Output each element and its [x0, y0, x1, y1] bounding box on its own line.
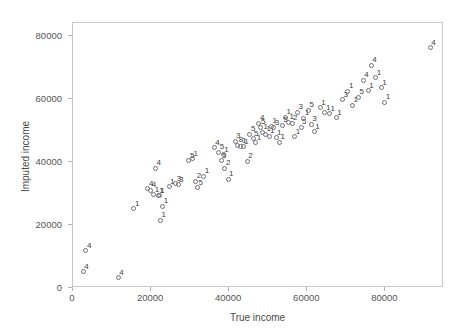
data-point-label: 4	[87, 242, 91, 250]
data-point-label: 1	[349, 82, 353, 90]
data-point-label: 1	[386, 93, 390, 101]
y-tick-mark	[68, 224, 72, 225]
x-tick-label: 0	[42, 292, 102, 303]
data-point-label: 1	[135, 200, 139, 208]
data-point-label: 1	[382, 79, 386, 87]
x-tick-label: 40000	[198, 292, 258, 303]
data-point-label: 1	[224, 146, 228, 154]
y-tick-label: 80000	[6, 29, 62, 40]
data-point-label: 1	[281, 133, 285, 141]
data-point-label: 1	[331, 105, 335, 113]
data-point-label: 2	[226, 159, 230, 167]
data-point-label: 5	[309, 101, 313, 109]
data-point-label: 3	[299, 103, 303, 111]
x-axis-title: True income	[72, 312, 443, 323]
data-point-label: 5	[359, 88, 363, 96]
data-points-layer: 4441441411111335125145512138112551451111…	[73, 23, 442, 286]
y-axis-title: Imputed income	[18, 24, 34, 289]
data-point-label: 4	[156, 159, 160, 167]
x-tick-label: 80000	[354, 292, 414, 303]
y-tick-label: 60000	[6, 92, 62, 103]
x-tick-label: 60000	[276, 292, 336, 303]
data-point-label: 1	[161, 211, 165, 219]
scatter-plot-figure: 4441441411111335125145512138112551451111…	[0, 0, 460, 335]
data-point-label: 1	[369, 82, 373, 90]
data-point-label: 4	[84, 263, 88, 271]
data-point-label: 1	[205, 167, 209, 175]
x-tick-mark	[306, 287, 307, 291]
data-point-label: 1	[337, 109, 341, 117]
y-tick-mark	[68, 98, 72, 99]
data-point-label: 1	[377, 69, 381, 77]
data-point-label: 1	[244, 138, 248, 146]
data-point-label: 5	[199, 179, 203, 187]
y-tick-mark	[68, 161, 72, 162]
data-point-label: 4	[431, 39, 435, 47]
data-point-label: 4	[364, 71, 368, 79]
y-tick-mark	[68, 35, 72, 36]
data-point-label: 4	[372, 56, 376, 64]
data-point-label: 1	[160, 187, 164, 195]
x-tick-mark	[384, 287, 385, 291]
x-tick-label: 20000	[120, 292, 180, 303]
plot-area: 4441441411111335125145512138112551451111…	[72, 22, 443, 287]
data-point-label: 1	[194, 150, 198, 158]
data-point-label: 2	[293, 114, 297, 122]
x-tick-mark	[150, 287, 151, 291]
x-tick-mark	[228, 287, 229, 291]
y-tick-label: 0	[6, 282, 62, 293]
data-point-label: 1	[164, 197, 168, 205]
data-point-label: 3	[275, 119, 279, 127]
y-tick-label: 40000	[6, 155, 62, 166]
y-tick-label: 20000	[6, 218, 62, 229]
data-point-label: 3	[179, 176, 183, 184]
data-point-label: 1	[229, 170, 233, 178]
data-point-label: 1	[315, 123, 319, 131]
data-point-label: 1	[257, 134, 261, 142]
data-point-label: 2	[248, 152, 252, 160]
x-tick-mark	[72, 287, 73, 291]
data-point-label: 4	[119, 269, 123, 277]
